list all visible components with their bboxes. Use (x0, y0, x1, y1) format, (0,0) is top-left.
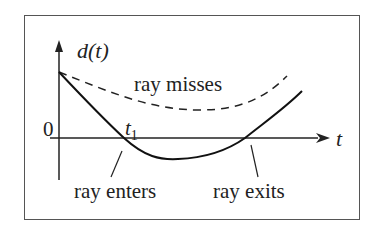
origin-label: 0 (43, 119, 54, 140)
t1-label: t1 (125, 118, 138, 143)
ray-exits-label: ray exits (213, 181, 285, 202)
y-axis-arrow-icon (55, 40, 63, 52)
x-axis-label: t (336, 128, 342, 150)
exit-leader-line (251, 145, 258, 177)
t1-label-subscript: 1 (131, 128, 138, 143)
ray-misses-label: ray misses (134, 74, 222, 95)
enter-leader-line (111, 151, 122, 177)
plot-canvas (0, 0, 378, 233)
x-axis-arrow-icon (316, 133, 330, 143)
ray-enters-label: ray enters (74, 181, 156, 202)
y-axis-label: d(t) (77, 40, 109, 62)
